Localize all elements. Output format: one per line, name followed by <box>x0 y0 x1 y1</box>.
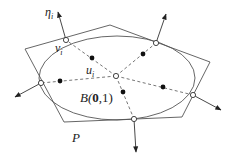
label-eta-i: ηi <box>45 5 53 21</box>
label-polygon-p: P <box>71 130 80 145</box>
dot-u-i <box>90 56 95 61</box>
center-point <box>113 73 118 78</box>
diagram-canvas: ηi vi ui B(0,1) P <box>0 0 231 158</box>
label-v-i: vi <box>55 41 63 57</box>
normal-arrows <box>15 12 221 152</box>
dashed-spokes <box>41 40 193 119</box>
arrow-eta-i <box>58 12 66 40</box>
label-u-i: ui <box>86 63 94 79</box>
label-ball: B(0,1) <box>80 90 113 105</box>
vertex-v-i <box>63 37 68 42</box>
filled-dots <box>58 52 166 95</box>
